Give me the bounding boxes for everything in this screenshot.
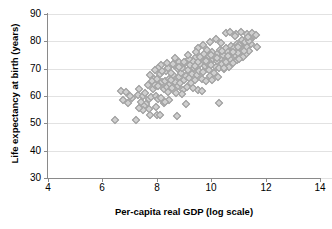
data-point (111, 115, 119, 123)
x-tick-label: 4 (36, 182, 60, 193)
x-tick-label: 12 (254, 182, 278, 193)
data-point (215, 99, 223, 107)
x-tick-label: 10 (199, 182, 223, 193)
data-point (172, 111, 180, 119)
data-point (152, 103, 160, 111)
x-axis-title: Per-capita real GDP (log scale) (48, 206, 320, 217)
y-tick-label: 50 (17, 118, 41, 128)
x-axis-line (47, 178, 321, 179)
x-tick-label: 8 (145, 182, 169, 193)
data-point (253, 43, 261, 51)
data-point (132, 116, 140, 124)
scatter-chart: Life expectancy at birth (years) Per-cap… (0, 0, 332, 229)
y-tick-label: 40 (17, 146, 41, 156)
y-tick-label: 90 (17, 9, 41, 19)
x-tick-label: 14 (308, 182, 332, 193)
y-tick-label: 60 (17, 91, 41, 101)
y-tick-label: 80 (17, 36, 41, 46)
y-tick-label: 70 (17, 64, 41, 74)
data-point (181, 100, 189, 108)
x-tick-label: 6 (90, 182, 114, 193)
plot-area (48, 14, 320, 178)
